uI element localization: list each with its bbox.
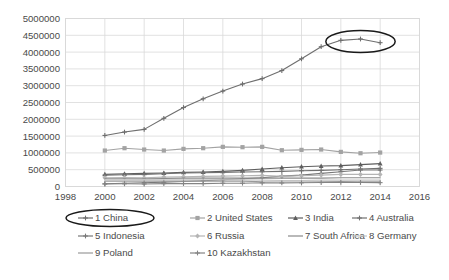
- legend-item-label: 2 United States: [207, 212, 273, 223]
- y-axis-tick-label: 500000: [28, 164, 60, 175]
- data-point-marker: [142, 147, 146, 151]
- legend-item-label: 9 Poland: [95, 247, 133, 258]
- data-point-marker: [358, 151, 362, 155]
- data-point-marker: [195, 216, 199, 220]
- y-axis-tick-label: 2500000: [23, 97, 60, 108]
- data-point-marker: [103, 148, 107, 152]
- data-point-marker: [339, 150, 343, 154]
- data-point-marker: [122, 146, 126, 150]
- chart-container: 5000000450000040000003500000300000025000…: [0, 0, 449, 280]
- data-point-marker: [299, 148, 303, 152]
- data-point-marker: [280, 148, 284, 152]
- x-axis-tick-label: 2012: [330, 191, 351, 202]
- x-axis-tick-label: 2004: [173, 191, 195, 202]
- y-axis-tick-label: 5000000: [23, 13, 60, 24]
- legend-item-label: 10 Kazakhstan: [207, 247, 270, 258]
- y-axis-tick-label: 3500000: [23, 63, 60, 74]
- y-axis-tick-label: 1500000: [23, 131, 60, 142]
- x-axis-tick-label: 2006: [212, 191, 233, 202]
- y-axis-tick-label: 4500000: [23, 30, 60, 41]
- y-axis-tick-label: 2000000: [23, 114, 60, 125]
- legend-item-label: 7 South Africa: [305, 230, 365, 241]
- x-axis-tick-label: 1998: [55, 191, 76, 202]
- y-axis-tick-label: 3000000: [23, 80, 60, 91]
- data-point-marker: [221, 145, 225, 149]
- y-axis-tick-label: 4000000: [23, 47, 60, 58]
- data-point-marker: [378, 150, 382, 154]
- data-point-marker: [162, 148, 166, 152]
- x-axis-tick-label: 2016: [409, 191, 430, 202]
- x-axis-tick-label: 2002: [133, 191, 154, 202]
- data-point-marker: [201, 146, 205, 150]
- legend-item-label: 1 China: [95, 212, 129, 223]
- y-axis-tick-label: 1000000: [23, 147, 60, 158]
- x-axis-tick-label: 2000: [94, 191, 115, 202]
- x-axis-tick-label: 2010: [291, 191, 312, 202]
- x-axis-tick-label: 2014: [369, 191, 391, 202]
- data-point-marker: [260, 145, 264, 149]
- legend-item-label: 4 Australia: [369, 212, 414, 223]
- legend-item-label: 3 India: [305, 212, 334, 223]
- y-axis-tick-labels: 5000000450000040000003500000300000025000…: [23, 13, 60, 192]
- legend-item-label: 8 Germany: [369, 230, 417, 241]
- data-point-marker: [240, 145, 244, 149]
- legend-item-label: 6 Russia: [207, 230, 245, 241]
- x-axis-tick-label: 2008: [251, 191, 272, 202]
- line-chart: 5000000450000040000003500000300000025000…: [0, 0, 449, 280]
- legend-item-label: 5 Indonesia: [95, 230, 145, 241]
- data-point-marker: [319, 147, 323, 151]
- data-point-marker: [181, 147, 185, 151]
